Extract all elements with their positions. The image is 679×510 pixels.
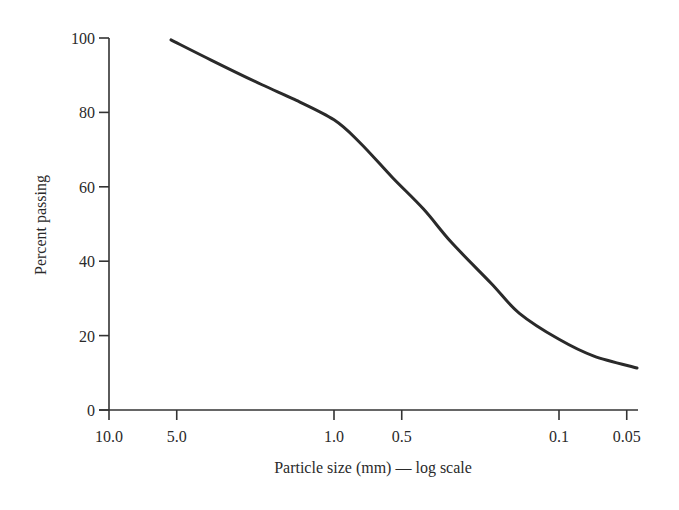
y-tick-label: 0 (87, 402, 95, 419)
y-tick-label: 60 (79, 179, 95, 196)
x-tick-label: 0.05 (613, 428, 641, 445)
x-axis: 10.05.01.00.50.10.05 (95, 410, 641, 445)
grain-size-curve (171, 40, 637, 368)
y-tick-label: 20 (79, 328, 95, 345)
x-tick-label: 5.0 (167, 428, 187, 445)
x-tick-label: 1.0 (324, 428, 344, 445)
x-axis-title: Particle size (mm) — log scale (274, 459, 472, 477)
x-tick-label: 0.1 (549, 428, 569, 445)
data-series (171, 40, 637, 368)
x-tick-label: 0.5 (392, 428, 412, 445)
y-tick-label: 40 (79, 253, 95, 270)
y-axis: 020406080100 (71, 30, 109, 419)
x-tick-label: 10.0 (95, 428, 123, 445)
y-tick-label: 80 (79, 104, 95, 121)
y-axis-title: Percent passing (32, 175, 50, 275)
grain-size-chart: 020406080100 10.05.01.00.50.10.05 Partic… (0, 0, 679, 510)
y-tick-label: 100 (71, 30, 95, 47)
